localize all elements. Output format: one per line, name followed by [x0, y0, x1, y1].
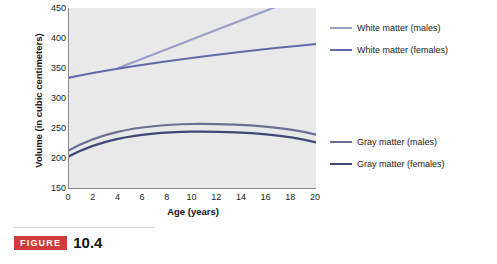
- x-tick-16: 16: [256, 192, 276, 202]
- y-axis-ticks: 450 400 350 300 250 200 150: [36, 8, 66, 190]
- plot-area: [68, 8, 316, 189]
- legend-label: White matter (females): [357, 44, 448, 56]
- chart-legend: White matter (males) White matter (femal…: [330, 8, 495, 188]
- legend-label: Gray matter (females): [357, 158, 445, 170]
- x-tick-20: 20: [305, 192, 325, 202]
- y-tick-200: 200: [38, 154, 66, 163]
- y-tick-350: 350: [38, 64, 66, 73]
- y-tick-400: 400: [38, 34, 66, 43]
- figure-number: 10.4: [67, 232, 102, 252]
- legend-swatch-icon: [330, 49, 352, 51]
- chart-lines: [69, 8, 316, 188]
- legend-swatch-icon: [330, 163, 352, 165]
- figure-container: Volume (in cubic centimeters) 450 400 35…: [0, 0, 497, 264]
- x-axis-ticks: 0 2 4 6 8 10 12 14 16 18 20: [68, 192, 318, 206]
- legend-swatch-icon: [330, 141, 352, 143]
- x-tick-12: 12: [206, 192, 226, 202]
- y-tick-300: 300: [38, 94, 66, 103]
- legend-swatch-icon: [330, 27, 352, 29]
- x-tick-6: 6: [132, 192, 152, 202]
- series-line-white-matter-females: [69, 44, 316, 78]
- x-tick-14: 14: [231, 192, 251, 202]
- y-tick-250: 250: [38, 124, 66, 133]
- series-line-white-matter-males: [118, 8, 278, 68]
- x-tick-18: 18: [280, 192, 300, 202]
- series-line-gray-matter-males: [69, 124, 316, 150]
- y-axis-label-holder: Volume (in cubic centimeters): [10, 20, 24, 180]
- x-tick-2: 2: [83, 192, 103, 202]
- caption-divider: [14, 227, 154, 228]
- x-axis-label: Age (years): [68, 206, 318, 217]
- legend-label: Gray matter (males): [357, 136, 437, 148]
- figure-tag-badge: FIGURE: [14, 236, 67, 250]
- x-tick-10: 10: [182, 192, 202, 202]
- figure-caption: FIGURE 10.4: [14, 232, 102, 252]
- x-tick-0: 0: [58, 192, 78, 202]
- y-tick-450: 450: [38, 4, 66, 13]
- x-tick-4: 4: [107, 192, 127, 202]
- legend-label: White matter (males): [357, 22, 441, 34]
- x-tick-8: 8: [157, 192, 177, 202]
